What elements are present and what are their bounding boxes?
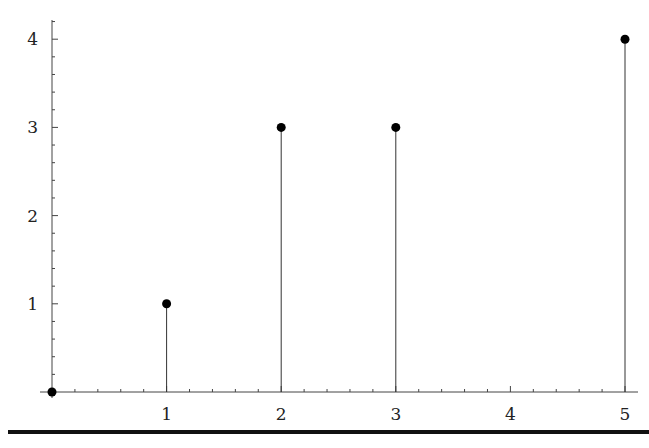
x-tick-label: 1	[161, 404, 172, 424]
data-point	[621, 35, 630, 44]
data-point	[48, 388, 57, 397]
data-point	[162, 299, 171, 308]
y-ticks: 1234	[27, 22, 58, 375]
x-tick-label: 2	[276, 404, 287, 424]
x-tick-label: 5	[620, 404, 631, 424]
bottom-rule	[8, 430, 649, 434]
data-point	[277, 123, 286, 132]
stem-plot: 12345 1234	[0, 0, 649, 448]
y-tick-label: 3	[27, 117, 38, 137]
x-tick-label: 4	[505, 404, 516, 424]
y-tick-label: 2	[27, 206, 38, 226]
y-tick-label: 1	[27, 294, 38, 314]
x-tick-label: 3	[390, 404, 401, 424]
data-point	[391, 123, 400, 132]
y-tick-label: 4	[27, 29, 38, 49]
stems	[48, 35, 630, 397]
axes: 12345 1234	[27, 20, 638, 424]
